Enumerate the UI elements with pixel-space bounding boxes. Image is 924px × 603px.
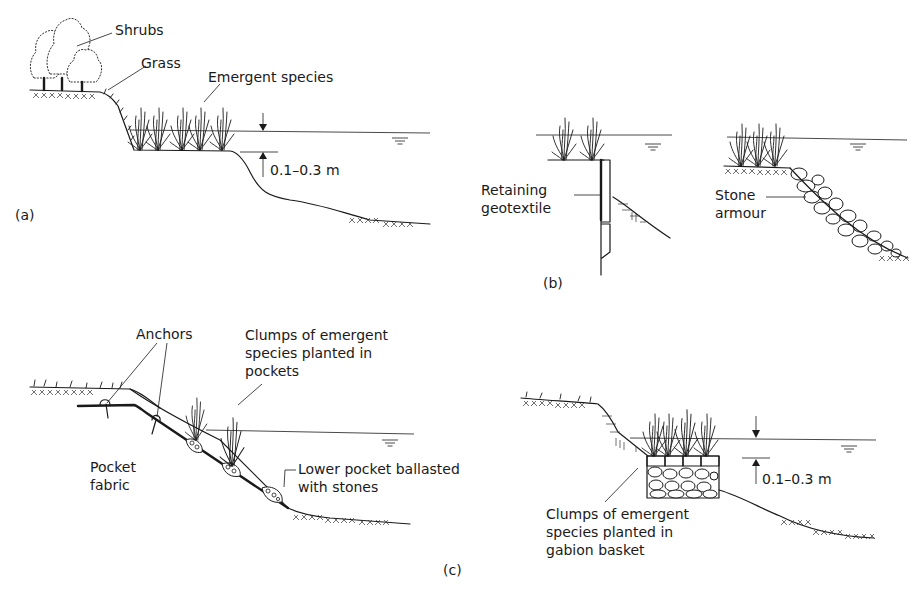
- label-lower-pocket-1: Lower pocket ballasted: [298, 461, 460, 477]
- label-clumps-pockets-3: pockets: [245, 363, 299, 379]
- panel-c-pocket-fabric: Anchors Clumps of emergent species plant…: [30, 326, 462, 578]
- label-depth-c: 0.1–0.3 m: [762, 471, 832, 487]
- label-stone: Stone: [715, 187, 755, 203]
- shrubs-illustration: [30, 18, 101, 91]
- depth-arrow-up: [259, 152, 267, 177]
- label-grass: Grass: [141, 55, 181, 71]
- depth-arrow-up: [752, 459, 760, 484]
- panel-a: Shrubs Grass Emergent species 0.1–0.3 m …: [15, 18, 430, 227]
- label-clumps-pockets-1: Clumps of emergent: [245, 327, 388, 343]
- label-fabric: fabric: [90, 477, 130, 493]
- panel-b-stone-armour: Stone armour: [715, 124, 909, 261]
- depth-arrow-down: [259, 113, 267, 131]
- planting-pocket: [186, 439, 202, 453]
- label-clumps-pockets-2: species planted in: [245, 345, 372, 361]
- label-shrubs: Shrubs: [115, 22, 164, 38]
- water-surface-a: [130, 130, 430, 133]
- label-gabion-2: species planted in: [546, 524, 673, 540]
- water-level-symbol: [382, 440, 398, 446]
- water-level-symbol: [841, 446, 857, 452]
- panel-b-geotextile: Retaining geotextile (b): [481, 118, 672, 291]
- label-gabion-3: gabion basket: [546, 542, 645, 558]
- bank-profile-a: [30, 90, 430, 224]
- label-armour: armour: [715, 205, 766, 221]
- gabion-basket: [647, 456, 719, 498]
- label-emergent-species: Emergent species: [208, 69, 333, 85]
- label-retaining: Retaining: [481, 182, 547, 198]
- label-gabion-1: Clumps of emergent: [546, 506, 689, 522]
- depth-arrow-down: [752, 416, 760, 438]
- emergent-species-illustration: [128, 108, 234, 150]
- panel-label-b: (b): [543, 275, 563, 291]
- panel-label-a: (a): [15, 207, 35, 223]
- label-lower-pocket-2: with stones: [298, 479, 378, 495]
- water-level-symbol: [645, 144, 661, 150]
- bank-planting-diagram: Shrubs Grass Emergent species 0.1–0.3 m …: [0, 0, 924, 603]
- lower-pocket-ballasted: [262, 487, 282, 502]
- panel-label-c: (c): [443, 562, 462, 578]
- label-depth-a: 0.1–0.3 m: [270, 162, 340, 178]
- water-level-symbol: [392, 138, 408, 144]
- stone-armour: [791, 168, 901, 257]
- label-anchors: Anchors: [136, 326, 193, 342]
- retaining-geotextile: [601, 160, 610, 275]
- panel-c-gabion: 0.1–0.3 m Clumps of emergent species pla…: [521, 392, 876, 558]
- anchor: [100, 400, 110, 418]
- water-level-symbol: [850, 144, 866, 150]
- label-pocket: Pocket: [90, 459, 136, 475]
- label-geotextile: geotextile: [481, 200, 551, 216]
